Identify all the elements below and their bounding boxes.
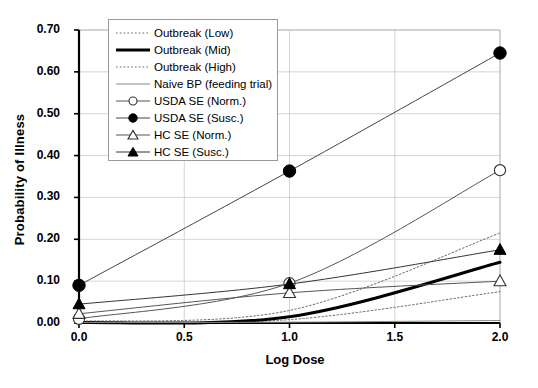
legend-item: USDA SE (Norm.) [109,92,277,109]
chart-legend: Outbreak (Low)Outbreak (Mid)Outbreak (Hi… [108,19,278,161]
legend-label: Outbreak (High) [154,60,236,74]
legend-sample-filled-triangle [115,145,151,159]
legend-label: USDA SE (Norm.) [154,94,246,108]
legend-item: Naive BP (feeding trial) [109,75,277,92]
data-point-marker [494,165,505,176]
y-tick-label: 0.40 [8,148,60,162]
legend-label: HC SE (Norm.) [154,128,231,142]
legend-sample-none [115,26,151,40]
y-axis-label: Probability of Illness [12,70,27,290]
dose-response-chart: Probability of Illness Log Dose 0.000.10… [0,0,538,388]
x-tick-label: 2.0 [480,330,520,344]
legend-sample-none [115,77,151,91]
y-tick-label: 0.00 [8,315,60,329]
y-tick-label: 0.20 [8,231,60,245]
data-point-marker [73,279,85,291]
y-tick-label: 0.60 [8,64,60,78]
data-point-marker [494,244,506,255]
legend-item: HC SE (Susc.) [109,143,277,160]
x-tick-label: 0.0 [59,330,99,344]
x-tick-label: 1.0 [270,330,310,344]
legend-item: Outbreak (Mid) [109,41,277,58]
y-tick-label: 0.30 [8,189,60,203]
legend-item: USDA SE (Susc.) [109,109,277,126]
legend-sample-none [115,60,151,74]
legend-sample-none [115,43,151,57]
legend-sample-open-circle [115,94,151,108]
legend-label: HC SE (Susc.) [154,145,229,159]
legend-sample-open-triangle [115,128,151,142]
x-tick-label: 0.5 [164,330,204,344]
data-point-marker [283,165,295,177]
data-point-marker [494,275,506,286]
legend-item: Outbreak (High) [109,58,277,75]
x-tick-label: 1.5 [375,330,415,344]
legend-item: HC SE (Norm.) [109,126,277,143]
legend-item: Outbreak (Low) [109,24,277,41]
legend-label: USDA SE (Susc.) [154,111,243,125]
data-point-marker [494,47,506,59]
y-tick-label: 0.10 [8,273,60,287]
y-tick-label: 0.50 [8,106,60,120]
x-axis-label: Log Dose [75,352,515,367]
legend-sample-filled-circle [115,111,151,125]
y-tick-label: 0.70 [8,22,60,36]
legend-label: Naive BP (feeding trial) [154,77,272,91]
legend-label: Outbreak (Mid) [154,43,231,57]
legend-label: Outbreak (Low) [154,26,233,40]
